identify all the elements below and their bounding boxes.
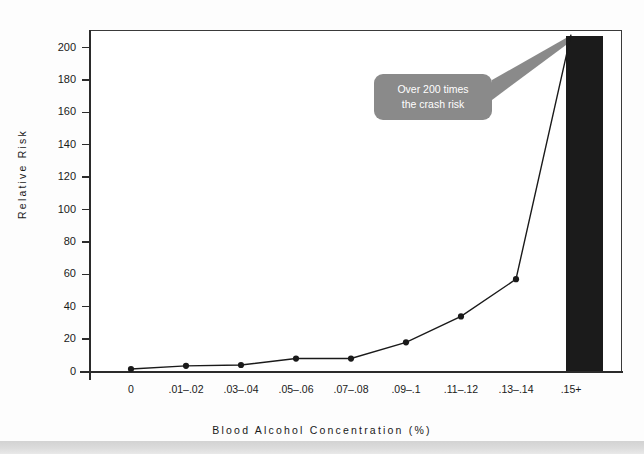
x-tick-label: .09–.1	[391, 383, 420, 395]
y-tick-mark	[82, 338, 91, 340]
y-tick-mark	[82, 112, 91, 114]
x-tick-label: 0	[128, 383, 134, 395]
x-axis-line	[80, 371, 623, 373]
y-axis-title: Relative Risk	[16, 114, 28, 234]
chart-page: 020406080100120140160180200 Relative Ris…	[0, 0, 644, 454]
x-tick-label: .07–.08	[333, 383, 368, 395]
y-tick-mark	[82, 47, 91, 49]
x-tick-label: .03–.04	[223, 383, 258, 395]
callout-line-1: Over 200 times	[374, 82, 492, 97]
x-tick-label: .15+	[561, 383, 582, 395]
y-tick-label: 80	[48, 236, 76, 247]
plot-area	[90, 30, 622, 372]
callout-line-2: the crash risk	[374, 97, 492, 112]
y-tick-mark	[82, 371, 91, 373]
y-tick-label: 160	[48, 106, 76, 117]
y-tick-label: 200	[48, 42, 76, 53]
y-tick-label: 100	[48, 204, 76, 215]
y-tick-mark	[82, 144, 91, 146]
x-tick-label: .13–.14	[498, 383, 533, 395]
x-tick-label: .11–.12	[444, 383, 478, 395]
x-tick-label: .01–.02	[168, 383, 203, 395]
y-tick-label: 20	[48, 333, 76, 344]
y-tick-label: 140	[48, 139, 76, 150]
y-tick-mark	[82, 176, 91, 178]
y-tick-label: 40	[48, 301, 76, 312]
bar-15-plus	[566, 36, 603, 372]
y-tick-label: 60	[48, 268, 76, 279]
y-tick-mark	[82, 241, 91, 243]
y-tick-label: 0	[48, 366, 76, 377]
crash-risk-callout: Over 200 times the crash risk	[374, 74, 492, 120]
footer-band	[0, 441, 644, 454]
y-tick-label: 180	[48, 74, 76, 85]
y-tick-mark	[82, 274, 91, 276]
y-tick-mark	[82, 79, 91, 81]
y-tick-label: 120	[48, 171, 76, 182]
x-axis-title: Blood Alcohol Concentration (%)	[0, 424, 644, 436]
x-tick-label: .05–.06	[278, 383, 313, 395]
y-axis-line	[89, 30, 91, 380]
y-tick-mark	[82, 306, 91, 308]
y-tick-mark	[82, 209, 91, 211]
